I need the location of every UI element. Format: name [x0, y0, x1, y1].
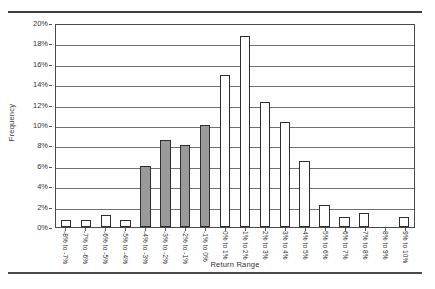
y-tick-label: 18% [33, 40, 48, 48]
x-tick-label-cell: 0% to 1% [215, 231, 235, 277]
bar-slot [354, 25, 374, 227]
histogram-bar[interactable] [260, 102, 270, 227]
x-axis-title: Return Range [55, 260, 415, 269]
histogram-bar[interactable] [160, 140, 170, 227]
y-tick-mark [49, 146, 52, 147]
y-tick-label: 8% [37, 142, 48, 150]
bar-slot [295, 25, 315, 227]
histogram-bar[interactable] [140, 166, 150, 227]
x-tick-label-cell: -5% to -4% [115, 231, 135, 277]
histogram-bar[interactable] [299, 161, 309, 227]
x-tick-label-cell: 2% to 3% [255, 231, 275, 277]
y-tick-label: 12% [33, 102, 48, 110]
x-tick-label-cell: 9% to 10% [395, 231, 415, 277]
y-tick-label: 4% [37, 183, 48, 191]
x-tick-label: 5% to 6% [322, 231, 329, 260]
x-tick-label-cell: -6% to -5% [95, 231, 115, 277]
y-tick-label: 20% [33, 20, 48, 28]
histogram-figure: Frequency 20%18%16%14%12%10%8%6%4%2%0% -… [0, 14, 435, 272]
bar-slot [96, 25, 116, 227]
bar-slot [255, 25, 275, 227]
x-tick-label: 1% to 2% [242, 231, 249, 260]
y-tick-mark [49, 24, 52, 25]
histogram-bar[interactable] [280, 122, 290, 227]
x-tick-label-cell: 4% to 5% [295, 231, 315, 277]
x-axis-tick-labels: -8% to -7%-7% to -6%-6% to -5%-5% to -4%… [55, 231, 415, 277]
y-tick-mark [49, 44, 52, 45]
y-tick-mark [49, 126, 52, 127]
bar-slot [56, 25, 76, 227]
y-tick-label: 6% [37, 163, 48, 171]
bar-slot [394, 25, 414, 227]
bar-slot [275, 25, 295, 227]
y-tick-label: 10% [33, 122, 48, 130]
x-tick-label-cell: -8% to -7% [55, 231, 75, 277]
x-tick-label-cell: -3% to -2% [155, 231, 175, 277]
y-tick-label: 16% [33, 61, 48, 69]
x-tick-label: 7% to 8% [362, 231, 369, 260]
x-tick-label-cell: -7% to -6% [75, 231, 95, 277]
x-tick-label: 3% to 4% [282, 231, 289, 260]
histogram-bar[interactable] [101, 215, 111, 227]
histogram-bar[interactable] [240, 36, 250, 227]
histogram-bar[interactable] [399, 217, 409, 227]
x-tick-label: 9% to 10% [402, 231, 409, 263]
x-tick-label: 8% to 9% [382, 231, 389, 260]
x-tick-label-cell: 7% to 8% [355, 231, 375, 277]
x-tick-label-cell: -2% to -1% [175, 231, 195, 277]
bar-slot [116, 25, 136, 227]
histogram-bar[interactable] [120, 220, 130, 227]
footer-divider [8, 272, 422, 274]
x-tick-label: 6% to 7% [342, 231, 349, 260]
y-tick-label: 2% [37, 204, 48, 212]
histogram-bar[interactable] [220, 75, 230, 227]
x-tick-label-cell: -1% to 0% [195, 231, 215, 277]
histogram-bar[interactable] [200, 125, 210, 227]
histogram-bar[interactable] [180, 145, 190, 227]
y-tick-mark [49, 208, 52, 209]
x-tick-label-cell: 3% to 4% [275, 231, 295, 277]
x-tick-label-cell: 5% to 6% [315, 231, 335, 277]
x-tick-label: 0% to 1% [222, 231, 229, 260]
bar-slot [76, 25, 96, 227]
x-tick-label: 4% to 5% [302, 231, 309, 260]
bar-slot [215, 25, 235, 227]
bar-slot [195, 25, 215, 227]
x-tick-label-cell: 8% to 9% [375, 231, 395, 277]
bar-slot [374, 25, 394, 227]
bar-slot [175, 25, 195, 227]
x-tick-label-cell: 6% to 7% [335, 231, 355, 277]
y-tick-label: 14% [33, 81, 48, 89]
bar-slot [315, 25, 335, 227]
y-tick-mark [49, 85, 52, 86]
bar-slot [334, 25, 354, 227]
histogram-bar[interactable] [319, 205, 329, 227]
x-tick-label-cell: 1% to 2% [235, 231, 255, 277]
histogram-bar[interactable] [81, 220, 91, 227]
plot-area [55, 24, 415, 228]
y-axis-tick-labels: 20%18%16%14%12%10%8%6%4%2%0% [14, 14, 52, 230]
y-tick-mark [49, 106, 52, 107]
y-tick-mark [49, 187, 52, 188]
histogram-bar[interactable] [359, 213, 369, 227]
header-divider-top [8, 11, 422, 13]
x-tick-label: -1% to 0% [202, 231, 209, 262]
histogram-bar[interactable] [61, 220, 71, 227]
page-header-strip [0, 0, 435, 9]
y-tick-mark [49, 228, 52, 229]
bar-series [56, 25, 414, 227]
y-tick-mark [49, 167, 52, 168]
y-tick-mark [49, 65, 52, 66]
histogram-bar[interactable] [339, 217, 349, 227]
y-tick-label: 0% [37, 224, 48, 232]
x-tick-label-cell: -4% to -3% [135, 231, 155, 277]
bar-slot [235, 25, 255, 227]
bar-slot [155, 25, 175, 227]
bar-slot [136, 25, 156, 227]
x-tick-label: 2% to 3% [262, 231, 269, 260]
